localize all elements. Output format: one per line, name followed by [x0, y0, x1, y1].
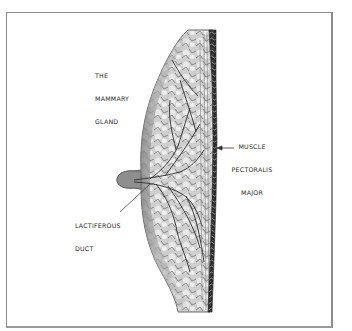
label-mammary-gland: THE MAMMARY GLAND [95, 57, 129, 133]
label-line: GLAND [95, 118, 129, 126]
label-line: THE [95, 72, 129, 80]
label-pectoralis-major: MUSCLE PECTORALIS MAJOR [224, 128, 280, 204]
label-line: MAMMARY [95, 95, 129, 103]
label-line: MUSCLE [224, 143, 280, 151]
label-line: MAJOR [224, 189, 280, 197]
label-line: PECTORALIS [224, 166, 280, 174]
label-line: LACTIFEROUS [75, 222, 121, 230]
label-line: DUCT [75, 245, 121, 253]
label-lactiferous-duct: LACTIFEROUS DUCT [75, 207, 121, 260]
mammary-gland-illustration [0, 0, 352, 331]
